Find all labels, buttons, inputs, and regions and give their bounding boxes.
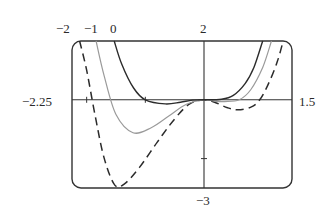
series-label-c-minus-2: −2: [56, 21, 70, 36]
series-label-c-minus-1: −1: [84, 21, 98, 36]
curves: [80, 41, 284, 187]
axis-ticks: [87, 97, 207, 159]
y-min-label: −3: [196, 193, 210, 208]
y-max-label: 2: [200, 21, 207, 36]
plot-frame: [72, 41, 292, 188]
series-label-c-0: 0: [110, 21, 117, 36]
x-min-label: −2.25: [22, 94, 52, 109]
curve-2: [114, 41, 263, 104]
curve-1: [96, 41, 271, 133]
curve-0: [80, 41, 284, 187]
chart: −2.25 1.5 2 −3 −2 −1 0: [0, 0, 331, 216]
x-max-label: 1.5: [299, 94, 315, 109]
